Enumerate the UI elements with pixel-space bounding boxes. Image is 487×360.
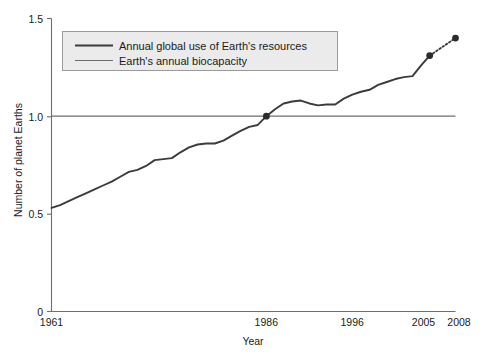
y-tick-label-0-5: 0.5 bbox=[28, 208, 43, 220]
x-tick-label-2008: 2008 bbox=[447, 316, 471, 328]
legend: Annual global use of Earth's resources E… bbox=[63, 32, 338, 71]
data-point-marker-2005-value bbox=[426, 52, 433, 59]
y-tick-label-1-5: 1.5 bbox=[28, 13, 43, 25]
data-point-marker-2008-projection bbox=[452, 35, 459, 42]
x-tick-label-1961: 1961 bbox=[40, 316, 64, 328]
y-axis-title: Number of planet Earths bbox=[12, 103, 24, 217]
x-tick-label-1986: 1986 bbox=[255, 316, 279, 328]
x-tick-label-2005: 2005 bbox=[412, 316, 436, 328]
x-axis-title: Year bbox=[242, 335, 264, 347]
ecological-footprint-line-chart: 1.5 1.0 0.5 0 Number of planet Earths 19… bbox=[0, 0, 487, 360]
x-tick-label-1996: 1996 bbox=[341, 316, 365, 328]
chart-container: 1.5 1.0 0.5 0 Number of planet Earths 19… bbox=[0, 0, 487, 360]
legend-label-annual-global-use: Annual global use of Earth's resources bbox=[119, 40, 307, 52]
legend-label-earths-biocapacity: Earth's annual biocapacity bbox=[119, 55, 248, 67]
data-point-marker-1986-crossing bbox=[263, 113, 270, 120]
y-tick-label-1-0: 1.0 bbox=[28, 111, 43, 123]
